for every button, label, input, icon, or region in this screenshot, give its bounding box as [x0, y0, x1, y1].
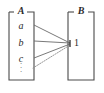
set-mapping-figure: A B a b c · · · 1 [0, 0, 104, 93]
set-a-label: A [14, 6, 28, 16]
set-b-label: B [74, 6, 88, 16]
set-a-element-b: b [14, 38, 28, 48]
set-b-element-one: 1 [74, 38, 84, 48]
ellipsis-dot-3: · [14, 70, 28, 74]
mapping-line-b-to-1 [34, 41, 70, 43]
set-a-ellipsis: · · · [14, 62, 28, 74]
set-a-element-a: a [14, 21, 28, 31]
mapping-line-c-to-1 [34, 44, 70, 58]
mapping-line-a-to-1 [34, 25, 70, 43]
